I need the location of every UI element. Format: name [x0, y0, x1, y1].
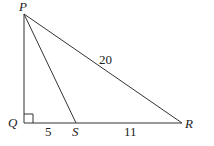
segment-ps	[24, 14, 76, 123]
segment-pr	[24, 14, 182, 123]
length-label-sr: 11	[124, 124, 137, 139]
triangle-diagram: P Q S R 20 5 11	[0, 0, 214, 146]
length-label-pr: 20	[99, 52, 112, 67]
point-label-q: Q	[8, 115, 18, 130]
point-label-s: S	[72, 124, 79, 139]
right-angle-marker	[24, 114, 33, 123]
point-label-r: R	[184, 116, 193, 131]
point-label-p: P	[18, 0, 27, 14]
length-label-qs: 5	[45, 124, 52, 139]
